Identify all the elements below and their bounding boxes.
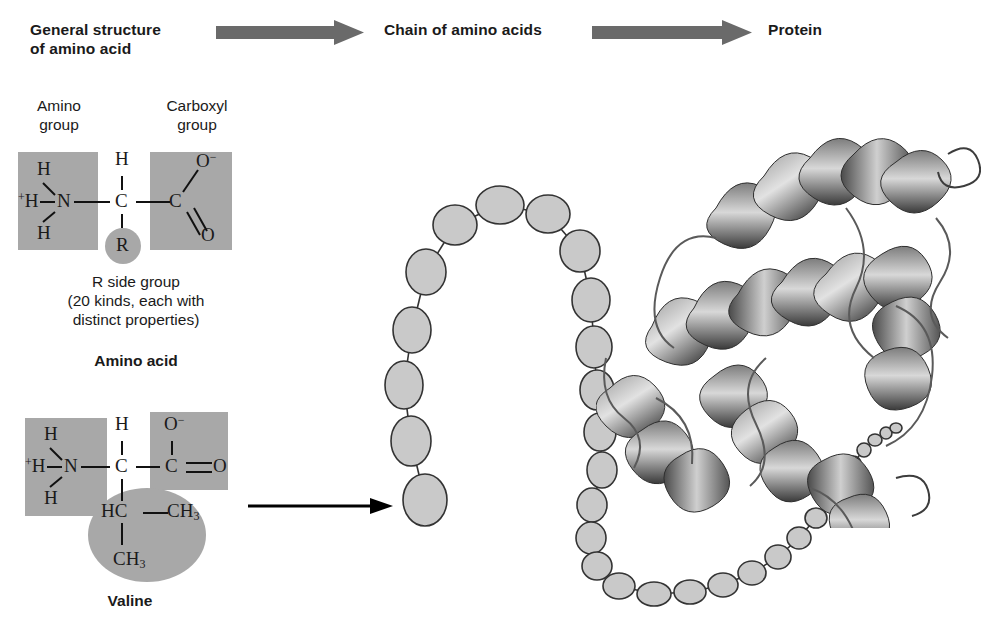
amino-acid-bead — [738, 561, 766, 585]
amino-acid-bead — [708, 573, 738, 597]
amino-acid-bead — [787, 527, 811, 549]
amino-acid-bead — [406, 249, 446, 295]
amino-acid-bead — [637, 582, 671, 606]
amino-acid-bead — [674, 580, 706, 604]
amino-acid-bead — [403, 474, 447, 526]
amino-acid-bead — [391, 416, 431, 466]
amino-acid-bead — [385, 361, 423, 409]
amino-acid-bead — [393, 307, 431, 353]
amino-acid-bead — [603, 573, 635, 599]
amino-acid-bead — [765, 545, 791, 569]
amino-acid-bead — [560, 230, 600, 272]
amino-acid-bead — [476, 186, 524, 224]
amino-acid-bead — [433, 205, 477, 245]
amino-acid-bead — [582, 552, 612, 580]
amino-acid-bead — [526, 195, 570, 233]
protein-ribbon-structure — [596, 58, 981, 528]
